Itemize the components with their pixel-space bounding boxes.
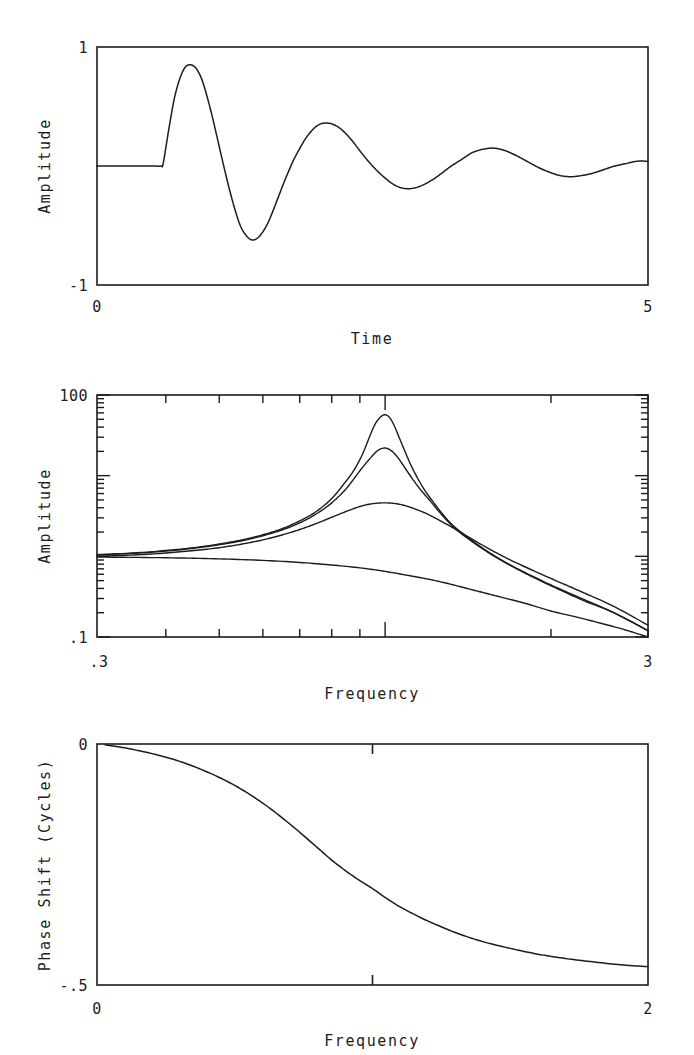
x-tick-right-1: 5 <box>643 298 653 316</box>
x-axis-label-3: Frequency <box>324 1032 420 1050</box>
data-lines-amplitude <box>97 415 648 637</box>
x-axis-label-1: Time <box>351 330 394 348</box>
y-tick-bottom-1: -1 <box>69 277 88 295</box>
y-tick-top-3: 0 <box>78 736 88 754</box>
y-axis-label-1: Amplitude <box>36 118 54 214</box>
data-line-impulse <box>97 65 648 240</box>
axes-box <box>97 744 648 985</box>
x-tick-left-1: 0 <box>92 298 102 316</box>
x-tick-left-3: 0 <box>92 1000 102 1018</box>
panel-impulse-response: 1 -1 0 5 Amplitude Time <box>0 0 694 355</box>
y-tick-top-1: 1 <box>78 39 88 57</box>
panel-amplitude-response: 100 .1 .3 3 Amplitude Frequency <box>0 355 694 710</box>
impulse-response-plot: 1 -1 0 5 Amplitude Time <box>0 0 694 355</box>
y-tick-bottom-2: .1 <box>69 629 88 647</box>
y-tick-bottom-3: -.5 <box>59 977 88 995</box>
y-tick-top-2: 100 <box>59 387 88 405</box>
x-axis-label-2: Frequency <box>324 685 420 703</box>
x-tick-left-2: .3 <box>89 653 108 671</box>
y-axis-label-2: Amplitude <box>36 468 54 564</box>
x-tick-right-3: 2 <box>643 1000 653 1018</box>
y-axis-label-3: Phase Shift (Cycles) <box>36 759 54 972</box>
phase-response-plot: 0 -.5 0 2 Phase Shift (Cycles) Frequency <box>0 710 694 1055</box>
panel-phase-response: 0 -.5 0 2 Phase Shift (Cycles) Frequency <box>0 710 694 1055</box>
amplitude-response-plot: 100 .1 .3 3 Amplitude Frequency <box>0 355 694 710</box>
plot-frame-3 <box>97 744 648 985</box>
x-tick-right-2: 3 <box>643 653 653 671</box>
data-line-phase <box>105 745 648 967</box>
figure-container: 1 -1 0 5 Amplitude Time 100 .1 .3 3 Ampl <box>0 0 694 1055</box>
